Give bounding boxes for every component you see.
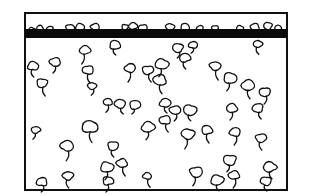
stalked-organism xyxy=(255,134,267,150)
stalked-organism xyxy=(159,116,170,132)
stalked-organism xyxy=(189,167,202,186)
black-surface-bar xyxy=(25,29,287,38)
diagram-canvas xyxy=(0,0,314,196)
stalked-organism xyxy=(181,129,195,149)
stalked-organism xyxy=(124,64,135,83)
surface-blob xyxy=(122,25,128,30)
stalked-organism xyxy=(153,74,167,93)
stalked-organism xyxy=(142,172,151,187)
stalked-organism xyxy=(263,162,277,179)
stalked-organism xyxy=(229,128,240,145)
stalked-organism xyxy=(184,105,197,121)
stalked-organism xyxy=(173,44,184,58)
stalked-organism xyxy=(241,79,255,98)
stalked-organism xyxy=(116,158,128,176)
stalked-organisms-group xyxy=(28,40,278,192)
stalked-organism xyxy=(108,142,119,157)
stalked-organism xyxy=(103,98,112,112)
stalked-organism xyxy=(87,83,97,96)
stalked-organism xyxy=(211,175,225,191)
stalked-organism xyxy=(62,172,74,188)
stalked-organism xyxy=(223,155,236,171)
stalked-organism xyxy=(253,41,263,55)
stalked-organism xyxy=(130,101,141,114)
stalked-organism xyxy=(37,79,48,96)
stalked-organism xyxy=(60,140,74,160)
diagram-frame xyxy=(25,13,287,190)
stalked-organism xyxy=(79,45,91,64)
surface-blob xyxy=(264,22,273,29)
stalked-organism xyxy=(49,58,60,73)
stalked-organism xyxy=(259,88,270,104)
surface-blob xyxy=(128,22,138,29)
stalked-organism xyxy=(169,106,181,121)
stalked-organism xyxy=(209,62,221,80)
stalked-organism xyxy=(110,40,121,55)
stalked-organism xyxy=(82,66,93,83)
stalked-organism xyxy=(188,41,197,53)
stalked-organism xyxy=(252,104,263,119)
stalked-organism xyxy=(114,99,125,114)
stalked-organism xyxy=(31,127,41,140)
stalked-organism xyxy=(202,126,213,143)
stalked-organism xyxy=(180,53,191,69)
stalked-organism xyxy=(82,121,98,143)
stalked-organism xyxy=(228,171,240,188)
stalked-organism xyxy=(224,73,237,91)
stalked-organism xyxy=(260,177,271,191)
stalked-organism xyxy=(28,61,39,77)
stalked-organism xyxy=(141,121,155,139)
stalked-organism xyxy=(227,103,238,120)
